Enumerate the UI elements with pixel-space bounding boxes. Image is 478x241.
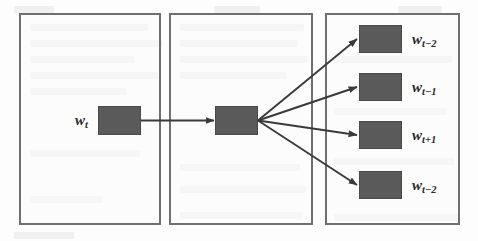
output-2-label-subscript: t−1 — [422, 86, 437, 97]
projection-box[interactable] — [215, 106, 258, 135]
diagram-canvas: wt wt−2 wt−1 wt+1 wt−2 — [0, 0, 478, 241]
output-1-label-subscript: t−2 — [422, 38, 437, 49]
output-3-label-symbol: w — [412, 127, 422, 143]
input-box-label: wt — [75, 113, 88, 128]
output-4-label-symbol: w — [412, 177, 422, 193]
output-box-1-label: wt−2 — [412, 32, 437, 47]
output-box-1[interactable] — [359, 25, 402, 53]
output-box-2-label: wt−1 — [412, 80, 437, 95]
output-3-label-subscript: t+1 — [422, 134, 436, 145]
input-label-symbol: w — [75, 112, 85, 128]
input-box[interactable] — [98, 106, 141, 135]
output-box-4[interactable] — [359, 171, 402, 199]
output-2-label-symbol: w — [412, 79, 422, 95]
input-label-subscript: t — [85, 119, 88, 130]
output-box-4-label: wt−2 — [412, 178, 437, 193]
output-box-3-label: wt+1 — [412, 128, 436, 143]
output-box-3[interactable] — [359, 121, 402, 149]
output-1-label-symbol: w — [412, 31, 422, 47]
output-box-2[interactable] — [359, 73, 402, 101]
output-4-label-subscript: t−2 — [422, 184, 437, 195]
